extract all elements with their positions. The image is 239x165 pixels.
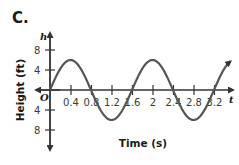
x-variable-label: t <box>229 94 234 105</box>
y-tick-label: 8 <box>34 125 40 136</box>
x-tick-label: 2.8 <box>186 97 202 108</box>
x-tick-label: 2 <box>150 97 156 108</box>
x-tick-label: 1.2 <box>104 97 120 108</box>
y-variable-label: h <box>40 31 47 42</box>
sinusoid-chart: 8 4 4 8 0.4 0.8 1.2 1.6 2 2.4 2.8 3.2 O … <box>0 0 239 165</box>
y-tick-label: 4 <box>34 105 40 116</box>
y-axis-title: Height (ft) <box>14 59 26 121</box>
y-tick-label: 8 <box>34 45 40 56</box>
x-tick-label: 0.4 <box>63 97 79 108</box>
x-axis-title: Time (s) <box>119 137 167 149</box>
y-tick-label: 4 <box>34 65 40 76</box>
origin-label: O <box>40 92 49 103</box>
